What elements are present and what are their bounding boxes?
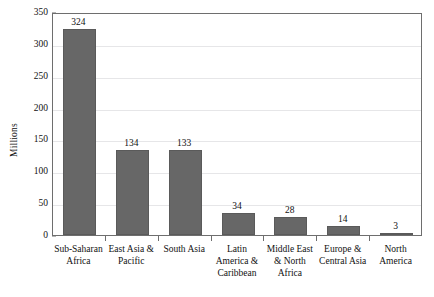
category-label-line: America & xyxy=(211,256,264,268)
x-axis-tick-mark xyxy=(316,236,317,241)
y-axis-tick-label: 300 xyxy=(4,40,48,50)
category-label-line: Pacific xyxy=(105,256,158,268)
x-axis-category-label: East Asia &Pacific xyxy=(105,244,158,268)
y-axis-tick-label: 350 xyxy=(4,8,48,18)
y-axis-tick-label: 50 xyxy=(4,199,48,209)
x-axis-tick-mark xyxy=(158,236,159,241)
bar xyxy=(327,226,360,235)
bar-value-label: 133 xyxy=(154,139,214,149)
y-axis-tick-label: 100 xyxy=(4,168,48,178)
bar-value-label: 324 xyxy=(48,18,108,28)
bar-value-label: 14 xyxy=(313,215,373,225)
x-axis-category-label: South Asia xyxy=(158,244,211,256)
gridline xyxy=(53,46,421,47)
bar-value-label: 3 xyxy=(366,222,426,232)
y-axis-tick-label: 150 xyxy=(4,136,48,146)
bar-value-label: 134 xyxy=(101,139,161,149)
x-axis-tick-mark xyxy=(369,236,370,241)
x-axis-tick-mark xyxy=(105,236,106,241)
category-label-line: South Asia xyxy=(158,244,211,256)
x-axis-category-label: Europe &Central Asia xyxy=(316,244,369,268)
gridline xyxy=(53,173,421,174)
x-axis-category-label: Sub-SaharanAfrica xyxy=(52,244,105,268)
category-label-line: Middle East xyxy=(263,244,316,256)
y-axis-tick-label: 250 xyxy=(4,72,48,82)
bar-value-label: 34 xyxy=(207,202,267,212)
gridline xyxy=(53,110,421,111)
bar xyxy=(116,150,149,235)
y-axis-tick-label: 0 xyxy=(4,231,48,241)
category-label-line: Central Asia xyxy=(316,256,369,268)
y-axis-tick-label: 200 xyxy=(4,104,48,114)
category-label-line: East Asia & xyxy=(105,244,158,256)
x-axis-category-label: NorthAmerica xyxy=(369,244,422,268)
x-axis-tick-mark xyxy=(263,236,264,241)
category-label-line: Caribbean xyxy=(211,268,264,280)
category-label-line: & North xyxy=(263,256,316,268)
bar xyxy=(274,217,307,235)
category-label-line: Africa xyxy=(263,268,316,280)
bar xyxy=(169,150,202,235)
category-label-line: Africa xyxy=(52,256,105,268)
bar xyxy=(63,29,96,235)
category-label-line: Sub-Saharan xyxy=(52,244,105,256)
x-axis-category-label: Middle East& NorthAfrica xyxy=(263,244,316,279)
category-label-line: Latin xyxy=(211,244,264,256)
bar xyxy=(222,213,255,235)
bar-chart: Millions 350300250200150100500 324134133… xyxy=(0,0,434,297)
category-label-line: America xyxy=(369,256,422,268)
bar-value-label: 28 xyxy=(260,206,320,216)
bar xyxy=(380,233,413,235)
category-label-line: North xyxy=(369,244,422,256)
x-axis-tick-mark xyxy=(211,236,212,241)
x-axis-category-label: LatinAmerica &Caribbean xyxy=(211,244,264,279)
category-label-line: Europe & xyxy=(316,244,369,256)
gridline xyxy=(53,78,421,79)
